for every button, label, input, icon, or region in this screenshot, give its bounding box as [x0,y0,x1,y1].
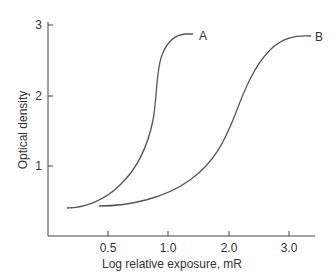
curve-b [99,36,311,206]
y-axis-title: Optical density [16,91,30,170]
x-axis-title: Log relative exposure, mR [102,257,242,271]
curve-b-label: B [315,30,323,44]
x-tick-label: 2.0 [221,241,238,255]
curve-a-label: A [199,29,207,43]
y-tick-label: 1 [35,159,42,173]
x-tick-label: 0.5 [100,241,117,255]
axes [48,22,315,236]
chart: 3 2 1 0.5 1.0 2.0 3.0 Log relative expos… [0,0,336,280]
curve-a [67,34,193,208]
y-tick-label: 2 [35,89,42,103]
x-tick-label: 3.0 [281,241,298,255]
y-tick-label: 3 [35,18,42,32]
x-tick-label: 1.0 [160,241,177,255]
